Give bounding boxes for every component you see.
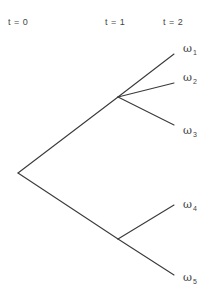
leaf-index: 4 — [193, 205, 197, 212]
omega-symbol: ω — [183, 124, 192, 137]
edge-lower-to-omega5 — [118, 239, 174, 275]
edge-lower-to-omega4 — [118, 205, 174, 239]
omega-symbol: ω — [183, 71, 192, 84]
leaf-label-omega3: ω3 — [183, 125, 197, 138]
omega-symbol: ω — [183, 271, 192, 284]
leaf-label-omega1: ω1 — [183, 43, 197, 56]
leaf-label-omega2: ω2 — [183, 72, 197, 85]
edge-root-to-lower — [18, 173, 118, 239]
leaf-index: 3 — [193, 131, 197, 138]
omega-symbol: ω — [183, 42, 192, 55]
leaf-index: 5 — [193, 278, 197, 285]
omega-symbol: ω — [183, 198, 192, 211]
leaf-index: 2 — [193, 78, 197, 85]
event-tree — [0, 0, 208, 298]
leaf-label-omega4: ω4 — [183, 199, 197, 212]
edge-upper-to-omega3 — [118, 97, 174, 125]
leaf-index: 1 — [193, 49, 197, 56]
leaf-label-omega5: ω5 — [183, 272, 197, 285]
edge-root-to-upper — [18, 97, 118, 173]
